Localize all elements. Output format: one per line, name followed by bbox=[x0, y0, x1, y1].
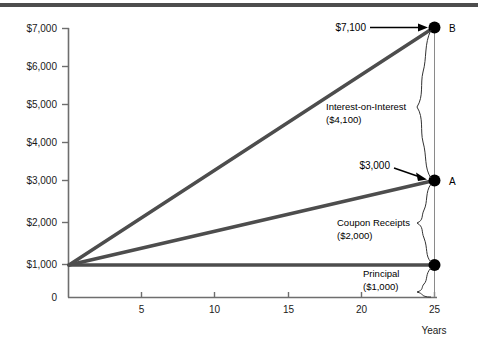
brace-principal bbox=[417, 268, 431, 297]
chart-page: $7,000 $6,000 $5,000 $4,000 $3,000 $2,00… bbox=[0, 0, 478, 351]
y-tick-label-7000: $7,000 bbox=[26, 23, 57, 34]
brace-interest-on-interest-path bbox=[417, 30, 431, 178]
value-label-a: $3,000 bbox=[359, 160, 390, 171]
value-callout-a: $3,000 bbox=[359, 160, 427, 181]
y-tick-label-4000: $4,000 bbox=[26, 137, 57, 148]
annotation-principal: Principal ($1,000) bbox=[363, 268, 399, 292]
annotation-principal-amount: ($1,000) bbox=[363, 281, 398, 292]
value-callout-a-arrow-line bbox=[394, 168, 420, 177]
x-axis-tick-labels: 5 10 15 20 25 bbox=[139, 304, 441, 315]
annotation-principal-title: Principal bbox=[363, 268, 399, 279]
value-label-b: $7,100 bbox=[335, 22, 366, 33]
brace-principal-path bbox=[417, 268, 431, 297]
series-lines bbox=[69, 28, 434, 266]
annotation-interest-on-interest: Interest-on-Interest ($4,100) bbox=[326, 101, 407, 125]
y-tick-label-0: 0 bbox=[51, 292, 57, 303]
annotation-coupon-amount: ($2,000) bbox=[337, 230, 372, 241]
brace-coupon-receipts bbox=[417, 184, 431, 262]
value-callout-a-arrowhead bbox=[416, 173, 427, 182]
y-axis-tick-labels: $7,000 $6,000 $5,000 $4,000 $3,000 $2,00… bbox=[26, 23, 57, 303]
brace-interest-on-interest bbox=[417, 30, 431, 178]
point-label-a: A bbox=[449, 176, 456, 187]
y-tick-label-2000: $2,000 bbox=[26, 217, 57, 228]
value-callout-b-arrowhead bbox=[418, 24, 428, 32]
annotation-ioi-amount: ($4,100) bbox=[326, 114, 361, 125]
x-tick-label-10: 10 bbox=[209, 304, 221, 315]
annotation-ioi-title: Interest-on-Interest bbox=[326, 101, 407, 112]
series-line-total-future-value bbox=[69, 28, 434, 266]
value-callout-b: $7,100 bbox=[335, 22, 428, 33]
brace-coupon-receipts-path bbox=[417, 184, 431, 262]
x-tick-label-15: 15 bbox=[283, 304, 295, 315]
y-tick-label-3000: $3,000 bbox=[26, 175, 57, 186]
y-tick-label-1000: $1,000 bbox=[26, 259, 57, 270]
x-tick-label-5: 5 bbox=[139, 304, 145, 315]
y-tick-label-6000: $6,000 bbox=[26, 61, 57, 72]
point-label-b: B bbox=[449, 23, 456, 34]
x-tick-label-20: 20 bbox=[356, 304, 368, 315]
y-tick-label-5000: $5,000 bbox=[26, 99, 57, 110]
annotation-coupon-title: Coupon Receipts bbox=[337, 217, 410, 228]
x-axis-title: Years bbox=[421, 325, 446, 336]
investment-growth-chart: $7,000 $6,000 $5,000 $4,000 $3,000 $2,00… bbox=[0, 0, 478, 351]
x-tick-label-25: 25 bbox=[429, 304, 441, 315]
annotation-coupon-receipts: Coupon Receipts ($2,000) bbox=[337, 217, 410, 241]
